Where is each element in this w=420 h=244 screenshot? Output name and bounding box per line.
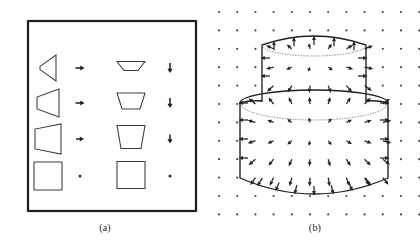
field-arrow-head — [289, 182, 293, 187]
grid-dot — [218, 11, 220, 13]
grid-dot — [254, 29, 256, 31]
caption-b: (b) — [210, 222, 420, 233]
field-arrow-head — [327, 162, 331, 167]
stacked-cylinder-body — [240, 36, 388, 194]
grid-dot — [345, 29, 347, 31]
field-arrow-shaft — [365, 121, 368, 122]
lower-right-normal-arrow-head — [385, 156, 389, 160]
field-arrow-shaft — [346, 141, 348, 142]
grid-dot — [364, 29, 366, 31]
grid-dot — [345, 11, 347, 13]
field-arrow-head — [308, 118, 312, 121]
grid-dot — [382, 11, 384, 13]
grid-dot — [364, 11, 366, 13]
field-arrow-shaft — [328, 141, 329, 143]
grid-dot — [382, 66, 384, 68]
field-arrow-shaft — [346, 67, 349, 68]
field-arrow-head — [367, 120, 372, 124]
field-arrow-shaft — [328, 67, 330, 68]
field-arrow-head — [387, 140, 392, 144]
field-arrow-head — [367, 140, 372, 144]
grid-dot — [218, 158, 220, 160]
field-arrow-shaft — [253, 178, 256, 182]
grid-dot — [400, 29, 402, 31]
field-arrow-shaft — [290, 121, 292, 122]
grid-dot — [382, 29, 384, 31]
grid-dot — [273, 213, 275, 215]
grid-dot — [309, 195, 311, 197]
field-arrow-shaft — [328, 47, 329, 49]
panel-a-row-4-h-arrow — [79, 175, 82, 178]
field-arrow-shaft — [328, 101, 329, 104]
field-arrow-shaft — [271, 141, 273, 142]
panel-b: (b) — [210, 0, 420, 244]
wide-left-wedge — [35, 124, 61, 154]
grid-dot — [236, 195, 238, 197]
grid-dot — [400, 103, 402, 105]
grid-dot — [400, 213, 402, 215]
lower-rim-back-arc — [240, 103, 388, 120]
grid-dot — [382, 48, 384, 50]
field-arrow-shaft — [271, 121, 273, 122]
field-arrow-head — [327, 182, 331, 187]
grid-dot — [254, 66, 256, 68]
grid-dot — [254, 195, 256, 197]
bottom-normal-arrow-shaft — [277, 182, 279, 187]
field-arrow-shaft — [252, 159, 255, 162]
panel-a-row-4-v-arrow-dot — [169, 175, 172, 178]
grid-dot — [309, 213, 311, 215]
grid-dot — [236, 48, 238, 50]
field-arrow-shaft — [383, 121, 387, 122]
grid-dot — [218, 85, 220, 87]
field-arrow-shaft — [346, 121, 348, 122]
field-arrow-head — [308, 162, 312, 167]
lower-left-normal-arrow-head — [239, 137, 243, 141]
grid-dot — [236, 158, 238, 160]
grid-dot — [309, 11, 311, 13]
square — [34, 162, 62, 190]
grid-dot — [236, 213, 238, 215]
grid-dot — [327, 213, 329, 215]
caption-a: (a) — [0, 222, 210, 233]
lower-right-normal-arrow-head — [385, 137, 389, 141]
field-arrow-shaft — [383, 141, 387, 142]
grid-dot — [236, 66, 238, 68]
grid-dot — [400, 158, 402, 160]
field-arrow-head — [327, 97, 331, 102]
field-arrow-head — [368, 45, 373, 49]
grid-dot — [254, 85, 256, 87]
grid-dot — [273, 29, 275, 31]
deep-trapezoid — [117, 126, 145, 149]
field-arrow-head — [369, 66, 374, 70]
grid-dot — [400, 85, 402, 87]
grid-dot — [291, 213, 293, 215]
grid-dot — [364, 213, 366, 215]
grid-dot — [400, 11, 402, 13]
grid-dot — [218, 121, 220, 123]
field-arrow-head — [308, 43, 312, 47]
grid-dot — [273, 11, 275, 13]
grid-dot — [327, 195, 329, 197]
lower-left-normal-arrow-head — [239, 156, 243, 160]
grid-dot — [327, 29, 329, 31]
grid-dot — [254, 11, 256, 13]
upper-right-normal-arrow-head — [363, 74, 367, 78]
panel-a: (a) — [0, 0, 210, 244]
field-arrow-head — [267, 120, 272, 124]
grid-dot — [236, 103, 238, 105]
grid-dot — [218, 103, 220, 105]
field-arrow-shaft — [346, 86, 349, 89]
grid-dot — [236, 29, 238, 31]
figure-root: (a) (b) — [0, 0, 420, 244]
grid-dot — [382, 213, 384, 215]
field-arrow-shaft — [365, 67, 369, 68]
field-arrow-shaft — [365, 159, 368, 162]
grid-dot — [327, 11, 329, 13]
grid-dot — [400, 121, 402, 123]
field-arrow-shaft — [272, 178, 274, 182]
medium-trapezoid — [117, 93, 145, 109]
field-arrow-shaft — [290, 141, 292, 142]
field-arrow-head — [308, 97, 312, 102]
bottom-normal-arrow-shaft — [260, 178, 263, 182]
grid-dot — [254, 213, 256, 215]
